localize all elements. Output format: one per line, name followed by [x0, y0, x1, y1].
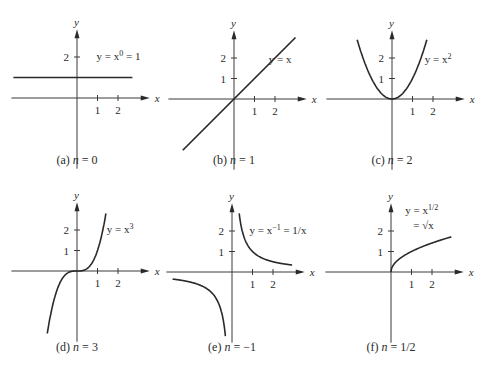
equation-label-line2: = √x	[413, 219, 434, 231]
x-arrow-icon	[298, 97, 307, 102]
equation-label: y = x2	[425, 52, 452, 66]
equation-label: y = x	[269, 53, 292, 65]
panel-e: xy1212y = x−1 = 1/x(e) n = −1	[166, 190, 314, 354]
panel-caption: (a) n = 0	[56, 153, 97, 167]
curve-branch-negative	[173, 279, 226, 336]
panel-caption: (b) n = 1	[213, 153, 255, 167]
y-tick-label: 1	[378, 246, 384, 258]
curve	[391, 237, 451, 272]
x-tick-label: 2	[115, 104, 121, 116]
equation-label: y = x1/2	[405, 202, 438, 216]
y-tick-label: 2	[64, 51, 70, 63]
x-tick-label: 1	[95, 277, 101, 289]
equation-label: y = x0 = 1	[96, 49, 140, 63]
y-axis-label: y	[228, 190, 234, 202]
y-axis-label: y	[230, 17, 236, 29]
y-arrow-icon	[390, 30, 395, 39]
x-tick-label: 2	[270, 278, 276, 290]
x-tick-label: 1	[95, 104, 101, 116]
y-tick-label: 1	[64, 245, 70, 257]
panel-caption: (c) n = 2	[371, 153, 412, 167]
x-tick-label: 2	[115, 277, 121, 289]
y-axis-label: y	[73, 189, 79, 201]
x-tick-label: 1	[410, 105, 416, 117]
x-axis-label: x	[154, 265, 160, 277]
y-tick-label: 1	[221, 73, 227, 85]
panel-f: xy1212y = x1/2= √x(f) n = 1/2	[325, 190, 473, 354]
y-tick-label: 1	[219, 246, 225, 258]
equation-label: y = x3	[107, 222, 134, 236]
x-axis-label: x	[309, 266, 315, 278]
y-tick-label: 2	[221, 52, 227, 64]
x-tick-label: 1	[409, 278, 415, 290]
curve-branch-positive	[239, 213, 292, 265]
y-tick-label: 2	[379, 52, 385, 64]
y-arrow-icon	[75, 202, 80, 211]
panel-c: xy1212y = x2(c) n = 2	[326, 17, 474, 169]
x-tick-label: 2	[272, 105, 278, 117]
panel-d: xy1212y = x3(d) n = 3	[11, 189, 159, 354]
panel-caption: (e) n = −1	[208, 340, 256, 354]
x-axis-label: x	[468, 266, 474, 278]
panel-caption: (d) n = 3	[56, 340, 98, 354]
panel-caption: (f) n = 1/2	[366, 340, 415, 354]
x-tick-label: 1	[252, 105, 258, 117]
x-arrow-icon	[455, 270, 464, 275]
x-tick-label: 2	[429, 278, 435, 290]
y-arrow-icon	[232, 30, 237, 39]
y-arrow-icon	[389, 203, 394, 212]
x-axis-label: x	[469, 93, 475, 105]
panel-a: xy122y = x0 = 1(a) n = 0	[11, 16, 159, 168]
x-arrow-icon	[141, 96, 150, 101]
y-tick-label: 2	[64, 224, 70, 236]
y-axis-label: y	[73, 16, 79, 28]
power-function-figure: xy122y = x0 = 1(a) n = 0xy1212y = x(b) n…	[0, 0, 487, 366]
y-axis-label: y	[388, 17, 394, 29]
panel-b: xy1212y = x(b) n = 1	[168, 17, 316, 169]
x-axis-label: x	[311, 93, 317, 105]
x-axis-label: x	[154, 92, 160, 104]
x-tick-label: 1	[250, 278, 256, 290]
y-tick-label: 1	[379, 73, 385, 85]
y-tick-label: 2	[219, 225, 225, 237]
y-arrow-icon	[75, 29, 80, 38]
y-tick-label: 2	[378, 225, 384, 237]
x-tick-label: 2	[430, 105, 436, 117]
x-arrow-icon	[296, 270, 305, 275]
equation-label: y = x−1 = 1/x	[249, 223, 306, 237]
x-arrow-icon	[456, 97, 465, 102]
y-arrow-icon	[230, 203, 235, 212]
x-arrow-icon	[141, 269, 150, 274]
y-axis-label: y	[387, 190, 393, 202]
